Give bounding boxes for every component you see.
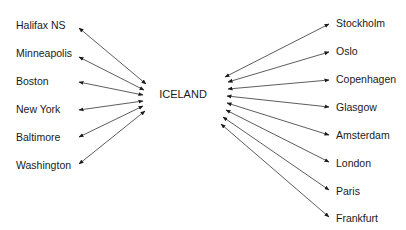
arrow-iceland-stockholm bbox=[225, 24, 329, 77]
arrow-iceland-boston bbox=[79, 82, 143, 95]
city-label-copenhagen: Copenhagen bbox=[336, 73, 396, 85]
arrow-iceland-glasgow bbox=[227, 96, 329, 107]
arrow-iceland-paris bbox=[223, 117, 329, 190]
arrow-iceland-halifax-ns bbox=[79, 28, 146, 84]
city-label-boston: Boston bbox=[16, 75, 49, 87]
arrow-iceland-baltimore bbox=[79, 106, 143, 137]
city-label-frankfurt: Frankfurt bbox=[336, 212, 378, 224]
city-label-stockholm: Stockholm bbox=[336, 17, 385, 29]
city-label-paris: Paris bbox=[336, 185, 360, 197]
city-label-new-york: New York bbox=[16, 103, 61, 115]
arrow-iceland-frankfurt bbox=[221, 124, 329, 217]
city-labels: Halifax NSMinneapolisBostonNew YorkBalti… bbox=[16, 17, 396, 224]
arrow-iceland-minneapolis bbox=[79, 57, 144, 90]
city-label-oslo: Oslo bbox=[336, 45, 358, 57]
city-label-baltimore: Baltimore bbox=[16, 131, 61, 143]
connection-arrows bbox=[79, 24, 329, 217]
city-label-glasgow: Glasgow bbox=[336, 101, 377, 113]
arrow-iceland-oslo bbox=[228, 52, 329, 82]
city-label-amsterdam: Amsterdam bbox=[336, 129, 390, 141]
hub-label-iceland: ICELAND bbox=[159, 88, 207, 100]
arrow-iceland-new-york bbox=[79, 101, 143, 110]
city-label-halifax-ns: Halifax NS bbox=[16, 19, 66, 31]
city-label-washington: Washington bbox=[16, 159, 71, 171]
city-label-minneapolis: Minneapolis bbox=[16, 47, 72, 59]
arrow-iceland-washington bbox=[79, 111, 145, 164]
city-label-london: London bbox=[336, 157, 371, 169]
hub-spoke-diagram: Halifax NSMinneapolisBostonNew YorkBalti… bbox=[0, 0, 406, 230]
arrow-iceland-copenhagen bbox=[228, 80, 329, 89]
